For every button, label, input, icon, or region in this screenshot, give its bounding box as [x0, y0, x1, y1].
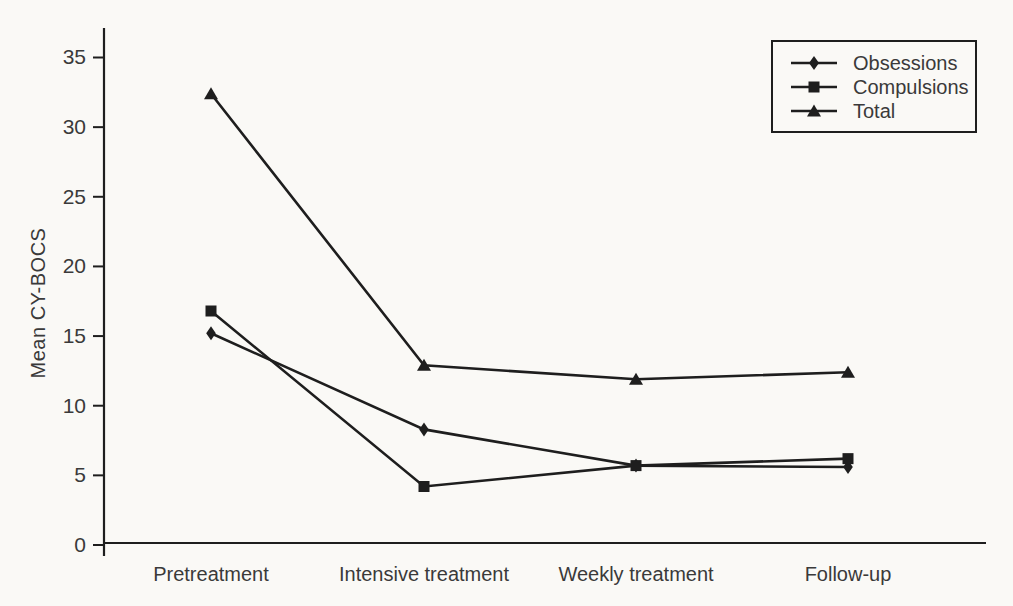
- square-marker-icon: [631, 460, 642, 471]
- diamond-marker-icon: [206, 326, 216, 340]
- diamond-marker-icon: [788, 55, 840, 71]
- square-marker-icon: [206, 305, 217, 316]
- series-line-total: [211, 94, 848, 380]
- y-tick-label-0: 0: [74, 533, 86, 556]
- y-tick-label-25: 25: [63, 185, 86, 208]
- y-tick-label-35: 35: [63, 45, 86, 68]
- legend-row-compulsions: Compulsions: [788, 76, 975, 98]
- x-category-label: Pretreatment: [153, 563, 269, 585]
- legend-row-total: Total: [788, 100, 975, 122]
- y-tick-label-20: 20: [63, 254, 86, 277]
- legend-row-obsessions: Obsessions: [788, 52, 975, 74]
- y-tick-label-30: 30: [63, 115, 86, 138]
- legend-label-obsessions: Obsessions: [853, 52, 958, 74]
- y-tick-label-15: 15: [63, 324, 86, 347]
- legend-label-compulsions: Compulsions: [853, 76, 969, 98]
- triangle-marker-icon: [204, 87, 218, 99]
- x-category-label: Follow-up: [805, 563, 892, 585]
- x-category-label: Intensive treatment: [339, 563, 510, 585]
- y-tick-label-5: 5: [74, 463, 86, 486]
- cy-bocs-line-chart-figure: 05101520253035PretreatmentIntensive trea…: [0, 0, 1013, 606]
- square-marker-icon: [843, 453, 854, 464]
- square-marker-icon: [419, 481, 430, 492]
- y-axis-title: Mean CY-BOCS: [27, 228, 50, 379]
- legend-box: Obsessions Compulsions Total: [771, 40, 977, 133]
- y-tick-label-10: 10: [63, 394, 86, 417]
- series-line-compulsions: [211, 311, 848, 487]
- legend-label-total: Total: [853, 100, 895, 122]
- triangle-marker-icon: [788, 103, 840, 119]
- square-marker-icon: [788, 79, 840, 95]
- x-category-label: Weekly treatment: [558, 563, 714, 585]
- series-line-obsessions: [211, 333, 848, 467]
- diamond-marker-icon: [419, 422, 429, 436]
